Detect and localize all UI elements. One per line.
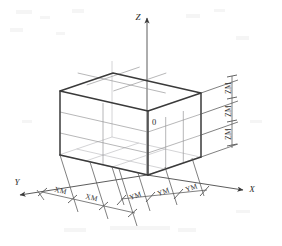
x-dimension-label-1: YM [128,189,143,202]
z-dimension-label-3: ZM [224,128,233,140]
box-hidden-grid [59,61,200,175]
y-dimension-label-2: XM [85,192,99,204]
z-dimension-group: ZM ZM ZM [201,75,238,157]
x-dimension-label-3: YM [184,181,199,194]
origin-label: 0 [152,117,156,127]
isometric-box-diagram: ZM ZM ZM YM YM YM [0,0,282,246]
figure-container: ZM ZM ZM YM YM YM [0,0,282,246]
y-axis-line [20,175,147,195]
y-dimension-group: XM XM [37,155,137,226]
x-dimension-label-2: YM [156,185,171,198]
y-axis-label: Y [14,177,20,187]
box-left-face-grid [60,103,148,165]
z-dimension-label-1: ZM [224,82,233,94]
y-dimension-label-1: XM [54,185,68,197]
x-dimension-group: YM YM YM [112,158,209,211]
x-axis-label: X [248,184,255,194]
box-outline [60,73,201,175]
z-dimension-label-2: ZM [224,105,233,117]
z-axis-label: Z [135,12,141,22]
